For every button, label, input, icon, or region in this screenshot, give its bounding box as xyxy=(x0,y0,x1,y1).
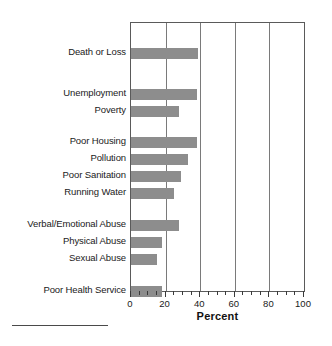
bottom-rule xyxy=(12,325,108,326)
gridline-40 xyxy=(200,23,201,291)
x-tick-minor xyxy=(191,291,192,295)
chart-figure: Death or LossUnemploymentPovertyPoor Hou… xyxy=(0,0,332,346)
x-tick-minor xyxy=(277,291,278,295)
x-tick-minor xyxy=(251,291,252,295)
x-tick-label: 0 xyxy=(117,298,143,309)
x-tick-major xyxy=(268,291,269,297)
x-tick-minor xyxy=(242,291,243,295)
bar xyxy=(131,171,181,182)
category-label: Verbal/Emotional Abuse xyxy=(0,219,126,229)
x-axis-title: Percent xyxy=(130,310,305,322)
x-tick-label: 40 xyxy=(186,298,212,309)
category-label: Sexual Abuse xyxy=(0,253,126,263)
category-label: Poor Sanitation xyxy=(0,170,126,180)
category-label: Poverty xyxy=(0,105,126,115)
bar xyxy=(131,237,162,248)
bar xyxy=(131,106,179,117)
x-tick-minor xyxy=(217,291,218,295)
gridline-80 xyxy=(269,23,270,291)
x-tick-minor xyxy=(208,291,209,295)
x-tick-minor xyxy=(147,291,148,295)
bar xyxy=(131,220,179,231)
x-tick-minor xyxy=(286,291,287,295)
x-tick-label: 20 xyxy=(152,298,178,309)
x-tick-major xyxy=(199,291,200,297)
category-label: Pollution xyxy=(0,153,126,163)
x-tick-minor xyxy=(294,291,295,295)
x-tick-major xyxy=(130,291,131,297)
x-tick-major xyxy=(234,291,235,297)
bar xyxy=(131,137,197,148)
x-tick-minor xyxy=(225,291,226,295)
x-tick-minor xyxy=(182,291,183,295)
x-tick-major xyxy=(303,291,304,297)
category-label: Physical Abuse xyxy=(0,236,126,246)
category-label: Death or Loss xyxy=(0,47,126,57)
x-tick-minor xyxy=(139,291,140,295)
x-tick-major xyxy=(165,291,166,297)
bar xyxy=(131,254,157,265)
category-label: Poor Housing xyxy=(0,136,126,146)
plot-inner xyxy=(131,23,304,291)
gridline-60 xyxy=(235,23,236,291)
category-label-column: Death or LossUnemploymentPovertyPoor Hou… xyxy=(0,22,126,290)
bar xyxy=(131,89,197,100)
x-tick-label: 60 xyxy=(221,298,247,309)
x-tick-label: 100 xyxy=(290,298,316,309)
x-tick-minor xyxy=(156,291,157,295)
x-tick-minor xyxy=(173,291,174,295)
x-tick-label: 80 xyxy=(255,298,281,309)
category-label: Poor Health Service xyxy=(0,285,126,295)
category-label: Running Water xyxy=(0,187,126,197)
bar xyxy=(131,188,174,199)
bar xyxy=(131,48,198,59)
x-tick-minor xyxy=(260,291,261,295)
bar xyxy=(131,154,188,165)
plot-area xyxy=(130,22,305,292)
category-label: Unemployment xyxy=(0,88,126,98)
